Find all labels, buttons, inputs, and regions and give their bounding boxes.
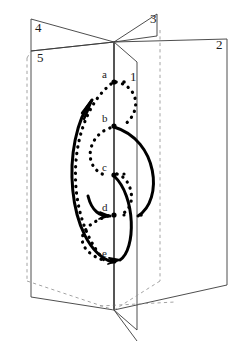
arc-tail-dot-c-right (122, 172, 125, 175)
arc-tail-dot-d-right (122, 213, 125, 216)
arc-b-to-d-solid (114, 127, 153, 216)
axis-point-c (111, 172, 116, 177)
figure-canvas: 4 3 2 5 1 a b c d e (0, 0, 248, 357)
arc-tail-dot-right-upper (122, 80, 126, 84)
axis-point-b (111, 123, 116, 128)
axis-point-a (111, 79, 116, 84)
point-label-b: b (102, 113, 108, 124)
point-label-c: c (102, 162, 107, 173)
axis-point-e (111, 258, 116, 263)
plane-label-1: 1 (130, 70, 137, 83)
point-label-e: e (102, 248, 107, 259)
plane-label-2: 2 (216, 38, 223, 51)
plane-1-lower-fold (114, 310, 137, 341)
arc-tail-dot-right-lower (139, 213, 143, 217)
point-label-a: a (102, 69, 107, 80)
arc-b-to-c-dotted (90, 128, 110, 176)
point-label-d: d (102, 202, 108, 213)
hidden-edge-rear-base (100, 302, 175, 306)
arc-a-to-b-dotted (116, 82, 136, 125)
plane-label-4: 4 (35, 21, 42, 34)
plane-outlines (31, 14, 227, 330)
axis-point-d (111, 212, 116, 217)
hidden-edge-plane-5-top (27, 51, 31, 58)
plane-label-5: 5 (37, 51, 44, 64)
plane-label-3: 3 (150, 12, 157, 25)
arc-e-to-a-solid (72, 100, 112, 262)
plane-1-outline (114, 42, 137, 330)
